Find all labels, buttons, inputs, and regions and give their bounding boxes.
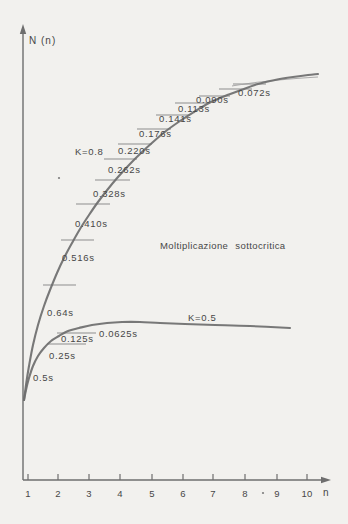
curve-retrace-k08 <box>232 77 318 86</box>
time-label-k08: 0.072s <box>238 87 271 98</box>
time-label-k08: 0.176s <box>139 128 172 139</box>
scanned-figure-page: 123456789100.64s0.516s0.410s0.328s0.262s… <box>0 0 348 524</box>
x-axis-arrow <box>321 477 331 483</box>
time-label-k08: 0.516s <box>62 252 95 263</box>
x-tick-label: 1 <box>25 488 31 499</box>
time-label-k08: 0.410s <box>75 218 108 229</box>
time-label-k08: 0.262s <box>108 164 141 175</box>
time-label-k08: 0.090s <box>196 94 229 105</box>
x-axis-label: n <box>323 488 329 498</box>
x-tick-label: 6 <box>180 488 186 499</box>
series-label-k08: K=0.8 <box>75 146 104 157</box>
x-tick-label: 10 <box>301 488 312 499</box>
chart-canvas: 123456789100.64s0.516s0.410s0.328s0.262s… <box>0 0 348 524</box>
time-label-k08: 0.64s <box>47 307 74 318</box>
y-axis-arrow <box>20 24 26 34</box>
x-tick-label: 9 <box>274 488 280 499</box>
x-tick-label: 7 <box>210 488 216 499</box>
scan-speck <box>262 492 264 494</box>
x-tick-label: 5 <box>149 488 155 499</box>
time-label-k05: 0.5s <box>33 372 54 383</box>
x-tick-label: 4 <box>117 488 123 499</box>
time-label-k08: 0.220s <box>118 145 151 156</box>
chart-title: Moltiplicazione sottocritica <box>160 241 286 251</box>
x-tick-label: 8 <box>242 488 248 499</box>
time-label-k08: 0.328s <box>93 188 126 199</box>
scan-speck <box>58 177 60 179</box>
time-label-k05: 0.25s <box>49 350 76 361</box>
x-tick-label: 2 <box>55 488 61 499</box>
series-label-k05: K=0.5 <box>188 312 217 323</box>
y-axis-label: N (n) <box>29 36 56 46</box>
x-tick-label: 3 <box>86 488 92 499</box>
time-label-k05: 0.0625s <box>99 328 138 339</box>
time-label-k08: 0.141s <box>159 113 192 124</box>
time-label-k05: 0.125s <box>61 333 94 344</box>
